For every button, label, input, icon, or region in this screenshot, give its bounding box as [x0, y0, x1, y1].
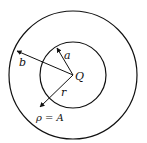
label-b: b	[19, 56, 26, 69]
label-r: r	[61, 86, 67, 99]
radius-r-arrow	[40, 75, 73, 107]
label-q: Q	[75, 70, 84, 83]
concentric-sphere-diagram: b a Q r ρ = A	[0, 0, 147, 143]
label-a: a	[64, 49, 71, 62]
label-rho: ρ = A	[35, 112, 64, 123]
